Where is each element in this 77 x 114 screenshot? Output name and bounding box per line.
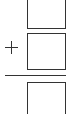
sum-line-divider xyxy=(5,75,66,76)
operator-label: + xyxy=(5,41,6,42)
sum-value xyxy=(28,83,29,84)
sum-box[interactable] xyxy=(27,82,66,114)
addend-2-box[interactable] xyxy=(27,33,66,70)
plus-icon: + xyxy=(5,41,18,54)
addend-2-value xyxy=(28,34,29,35)
addend-1-box[interactable] xyxy=(27,0,66,29)
